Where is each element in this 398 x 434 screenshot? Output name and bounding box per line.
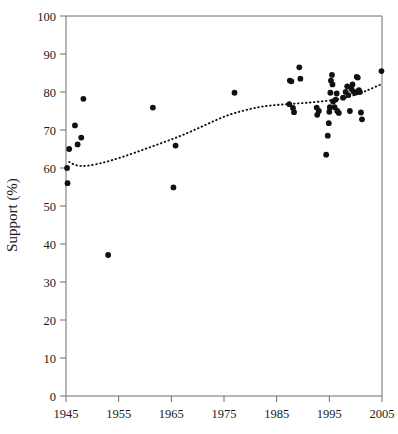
data-point — [355, 75, 361, 81]
data-point — [297, 76, 303, 82]
data-point — [78, 135, 84, 141]
data-point — [289, 78, 295, 84]
data-point — [75, 142, 81, 148]
data-point — [336, 110, 342, 116]
x-tick-label: 1955 — [106, 407, 131, 421]
y-tick-label: 70 — [44, 124, 57, 138]
data-point — [357, 89, 363, 95]
y-tick-label: 90 — [44, 48, 57, 62]
data-point — [64, 165, 70, 171]
data-point — [329, 72, 335, 78]
scatter-plot: Support (%) 0102030405060708090100 19451… — [0, 0, 398, 434]
data-point — [291, 109, 297, 115]
data-point — [171, 184, 177, 190]
y-tick-label: 40 — [44, 238, 57, 252]
data-point — [325, 133, 331, 139]
data-point — [350, 82, 356, 88]
data-point — [65, 180, 71, 186]
y-axis-ticks: 0102030405060708090100 — [37, 10, 66, 404]
data-point — [323, 152, 329, 158]
data-point — [334, 91, 340, 97]
data-points — [64, 64, 384, 258]
data-point — [340, 95, 346, 101]
data-point — [150, 105, 156, 111]
data-point — [72, 123, 78, 129]
y-axis-label-text: Support (%) — [4, 178, 21, 252]
y-tick-label: 100 — [37, 10, 56, 24]
y-tick-label: 80 — [44, 86, 57, 100]
x-tick-label: 1975 — [212, 407, 237, 421]
data-point — [345, 92, 351, 98]
y-tick-label: 10 — [44, 352, 57, 366]
data-point — [326, 120, 332, 126]
data-point — [173, 143, 179, 149]
x-tick-label: 2005 — [370, 407, 395, 421]
plot-frame — [66, 16, 382, 396]
data-point — [358, 110, 364, 116]
trend-line — [69, 85, 380, 166]
x-tick-label: 1985 — [264, 407, 289, 421]
data-point — [316, 108, 322, 114]
data-point — [66, 146, 72, 152]
x-axis-ticks: 1945195519651975198519952005 — [54, 396, 395, 421]
data-point — [359, 116, 365, 122]
y-tick-label: 20 — [44, 314, 57, 328]
x-tick-label: 1965 — [159, 407, 184, 421]
data-point — [379, 68, 385, 74]
y-tick-label: 0 — [50, 390, 56, 404]
data-point — [296, 64, 302, 70]
data-point — [232, 90, 238, 96]
y-tick-label: 30 — [44, 276, 57, 290]
y-tick-label: 60 — [44, 162, 57, 176]
y-axis-label: Support (%) — [4, 178, 21, 252]
data-point — [327, 90, 333, 96]
x-tick-label: 1995 — [317, 407, 342, 421]
data-point — [330, 82, 336, 88]
data-point — [333, 97, 339, 103]
data-point — [347, 108, 353, 114]
x-tick-label: 1945 — [54, 407, 79, 421]
data-point — [80, 96, 86, 102]
y-tick-label: 50 — [44, 200, 57, 214]
chart-figure: Support (%) 0102030405060708090100 19451… — [0, 0, 398, 434]
data-point — [105, 252, 111, 258]
